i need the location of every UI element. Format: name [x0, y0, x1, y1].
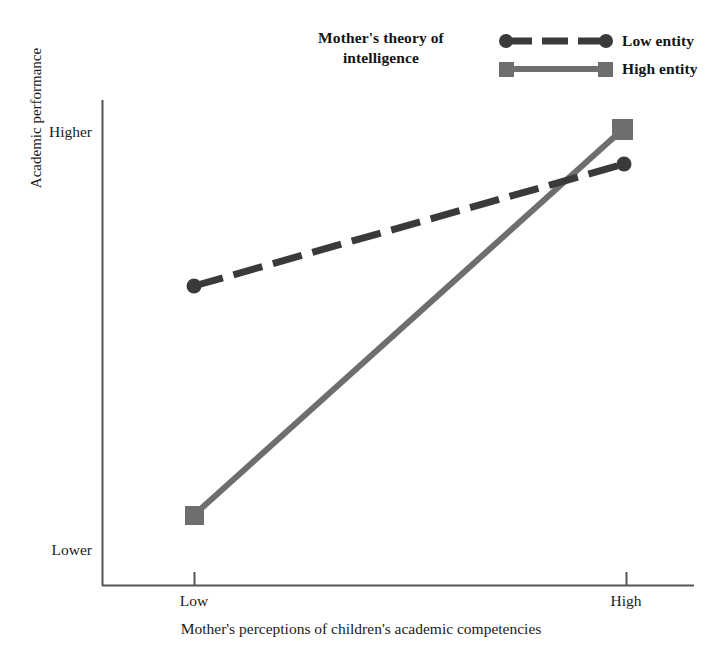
high-entity-line — [194, 130, 622, 515]
y-axis-label: Academic performance — [28, 8, 45, 228]
plot-area — [0, 0, 722, 645]
x-tick-label-low: Low — [149, 592, 239, 610]
y-tick-label-lower: Lower — [14, 541, 92, 559]
x-axis-label: Mother's perceptions of children's acade… — [0, 620, 722, 638]
series-low-entity — [187, 157, 632, 294]
high-entity-point-low — [185, 506, 204, 525]
chart-figure: Mother's theory of intelligence Low enti… — [0, 0, 722, 645]
low-entity-point-low — [187, 279, 202, 294]
x-tick-label-high: High — [581, 592, 671, 610]
y-tick-label-higher: Higher — [14, 123, 92, 141]
high-entity-point-high — [612, 119, 633, 140]
low-entity-line — [194, 164, 624, 286]
low-entity-point-high — [617, 157, 632, 172]
